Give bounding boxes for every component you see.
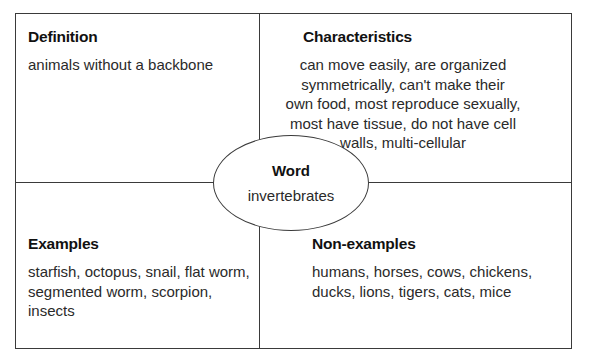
characteristics-line: can move easily, are organized	[268, 55, 538, 75]
center-word-title: Word	[272, 162, 310, 179]
characteristics-line: symmetrically, can't make their	[268, 75, 538, 95]
characteristics-line: own food, most reproduce sexually,	[268, 94, 538, 114]
examples-line: segmented worm, scorpion, insects	[28, 282, 258, 321]
non-examples-text: humans, horses, cows, chickens, ducks, l…	[312, 262, 562, 301]
definition-quadrant: Definition animals without a backbone	[28, 28, 253, 75]
examples-quadrant: Examples starfish, octopus, snail, flat …	[28, 235, 258, 321]
definition-line: animals without a backbone	[28, 55, 253, 75]
characteristics-quadrant: Characteristics can move easily, are org…	[266, 28, 566, 153]
examples-title: Examples	[28, 235, 258, 253]
non-examples-line: ducks, lions, tigers, cats, mice	[312, 282, 562, 302]
non-examples-line: humans, horses, cows, chickens,	[312, 262, 562, 282]
center-word-value: invertebrates	[248, 187, 335, 204]
definition-title: Definition	[28, 28, 253, 46]
examples-text: starfish, octopus, snail, flat worm, seg…	[28, 262, 258, 321]
center-word-ellipse: Word invertebrates	[213, 135, 369, 231]
characteristics-line: most have tissue, do not have cell	[268, 114, 538, 134]
definition-text: animals without a backbone	[28, 55, 253, 75]
non-examples-quadrant: Non-examples humans, horses, cows, chick…	[312, 235, 562, 301]
characteristics-title: Characteristics	[266, 28, 566, 46]
examples-line: starfish, octopus, snail, flat worm,	[28, 262, 258, 282]
non-examples-title: Non-examples	[312, 235, 562, 253]
